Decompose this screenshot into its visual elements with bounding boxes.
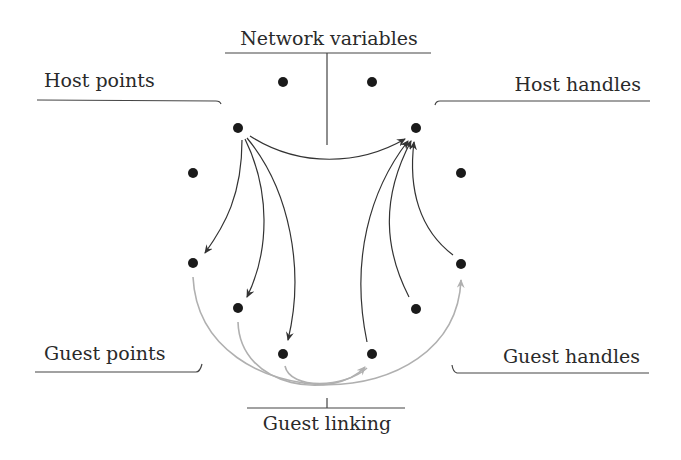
node-network-variable bbox=[367, 77, 377, 87]
node-host-point bbox=[188, 168, 198, 178]
guest-linking-edges bbox=[193, 277, 461, 385]
edge-gp2-gh3 bbox=[238, 322, 365, 385]
label-network-variables: Network variables bbox=[240, 27, 418, 49]
node-guest-handle bbox=[367, 349, 377, 359]
edge-gh3-hh1 bbox=[361, 141, 408, 342]
node-host-handle bbox=[411, 123, 421, 133]
host-guest-network-diagram: Network variables Host points Host handl… bbox=[0, 0, 681, 460]
label-host-handles: Host handles bbox=[515, 73, 641, 95]
edge-hp1-gp2 bbox=[245, 139, 264, 297]
node-guest-handle bbox=[411, 304, 421, 314]
node-guest-point bbox=[278, 349, 288, 359]
edge-gh1-hh1 bbox=[413, 142, 453, 255]
bracket-network-variables bbox=[225, 53, 431, 145]
label-guest-points: Guest points bbox=[44, 342, 165, 364]
bracket-host-handles bbox=[435, 101, 650, 105]
node-guest-point bbox=[233, 303, 243, 313]
edge-hp1-gp1 bbox=[205, 140, 242, 253]
label-guest-linking: Guest linking bbox=[263, 412, 391, 434]
node-host-handle bbox=[456, 168, 466, 178]
edge-hp1-gp3 bbox=[247, 138, 295, 340]
bracket-guest-linking bbox=[247, 398, 405, 408]
label-guest-handles: Guest handles bbox=[503, 345, 640, 367]
bracket-host-points bbox=[37, 100, 221, 104]
node-guest-point bbox=[188, 258, 198, 268]
bracket-guest-points bbox=[35, 364, 202, 372]
node-network-variable bbox=[278, 77, 288, 87]
edge-gp1-gh1 bbox=[193, 277, 461, 385]
node-guest-handle bbox=[456, 259, 466, 269]
label-host-points: Host points bbox=[44, 69, 155, 91]
node-host-point bbox=[233, 123, 243, 133]
